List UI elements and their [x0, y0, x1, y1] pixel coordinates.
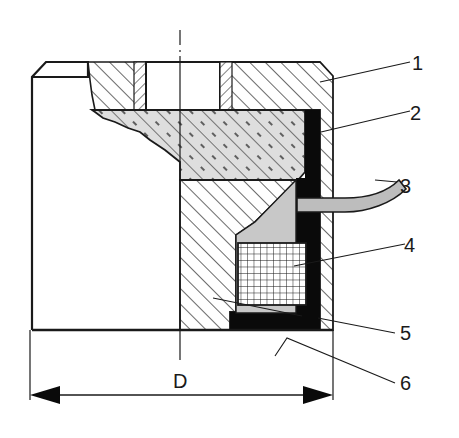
arrow-right-icon	[303, 386, 333, 404]
callout-3: 3	[400, 175, 411, 197]
outer-body	[32, 62, 88, 330]
callout-2: 2	[410, 102, 421, 124]
plate-part-2	[92, 110, 305, 180]
coil-part-4	[238, 243, 306, 305]
callout-6: 6	[400, 372, 411, 394]
arrow-left-icon	[30, 386, 60, 404]
callout-5: 5	[400, 322, 411, 344]
callout-4: 4	[404, 234, 415, 256]
dimension-label: D	[173, 370, 187, 392]
dimension-d: D	[30, 330, 333, 404]
housing-top-left-section	[88, 62, 146, 110]
callout-1: 1	[412, 52, 423, 74]
cross-section-diagram: D 1 2 3 4 5 6	[0, 0, 459, 438]
center-bore	[146, 62, 220, 110]
callout-labels: 1 2 3 4 5 6	[400, 52, 423, 394]
